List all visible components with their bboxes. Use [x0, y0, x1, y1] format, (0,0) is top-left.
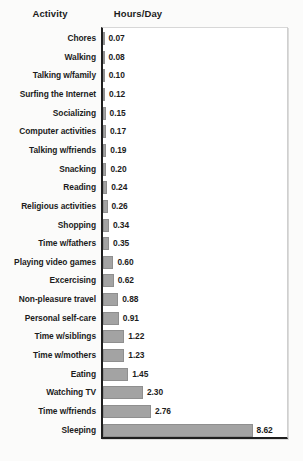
bar	[103, 293, 118, 306]
bar-value-label: 0.62	[118, 275, 134, 285]
bar-row: Computer activities0.17	[0, 123, 303, 142]
bar	[103, 349, 124, 362]
bar-category-label: Time w/friends	[0, 406, 96, 416]
bar-value-label: 0.20	[110, 164, 126, 174]
bar-value-label: 1.45	[132, 369, 148, 379]
bar-value-label: 0.24	[111, 182, 127, 192]
bar-category-label: Shopping	[0, 220, 96, 230]
bar	[103, 405, 151, 418]
bar-value-label: 0.07	[109, 33, 125, 43]
bar	[103, 312, 119, 325]
bar-value-label: 0.91	[123, 313, 139, 323]
bar-row: Surfing the Internet0.12	[0, 86, 303, 105]
bar-value-label: 0.15	[110, 108, 126, 118]
bar	[103, 69, 105, 82]
bar-category-label: Talking w/friends	[0, 145, 96, 155]
bar-value-label: 0.17	[110, 126, 126, 136]
bar-row: Walking0.08	[0, 49, 303, 68]
bar-value-label: 2.30	[147, 387, 163, 397]
bar-value-label: 2.76	[155, 406, 171, 416]
bar-row: Talking w/family0.10	[0, 67, 303, 86]
bar-category-label: Excercising	[0, 275, 96, 285]
bar-row: Playing video games0.60	[0, 254, 303, 273]
bar-value-label: 8.62	[257, 425, 273, 435]
bar	[103, 256, 113, 269]
bar-row: Religious activities0.26	[0, 198, 303, 217]
bar-value-label: 0.34	[113, 220, 129, 230]
bar-value-label: 0.26	[112, 201, 128, 211]
bar-category-label: Time w/siblings	[0, 331, 96, 341]
bar-row: Snacking0.20	[0, 161, 303, 180]
bar-row: Excercising0.62	[0, 272, 303, 291]
bar-category-label: Religious activities	[0, 201, 96, 211]
bar-category-label: Walking	[0, 52, 96, 62]
bar	[103, 200, 108, 213]
bar	[103, 163, 106, 176]
bar-category-label: Playing video games	[0, 257, 96, 267]
bar-row: Watching TV2.30	[0, 384, 303, 403]
bar-category-label: Sleeping	[0, 425, 96, 435]
bar-value-label: 0.19	[110, 145, 126, 155]
bar-category-label: Socializing	[0, 108, 96, 118]
bar-category-label: Talking w/family	[0, 70, 96, 80]
bar-row: Reading0.24	[0, 179, 303, 198]
bar	[103, 32, 105, 45]
bar-row: Sleeping8.62	[0, 422, 303, 441]
bar	[103, 88, 105, 101]
bar-value-label: 0.60	[117, 257, 133, 267]
bar	[103, 51, 105, 64]
bar-category-label: Time w/mothers	[0, 350, 96, 360]
bar-row: Time w/siblings1.22	[0, 328, 303, 347]
bar-value-label: 0.08	[109, 52, 125, 62]
bar-row: Time w/fathers0.35	[0, 235, 303, 254]
bar-category-label: Reading	[0, 182, 96, 192]
bar	[103, 424, 253, 437]
bar-row: Time w/friends2.76	[0, 403, 303, 422]
bar-row: Personal self-care0.91	[0, 310, 303, 329]
bar-row: Socializing0.15	[0, 105, 303, 124]
bar	[103, 144, 106, 157]
bar-row: Time w/mothers1.23	[0, 347, 303, 366]
bar	[103, 330, 124, 343]
bar-category-label: Time w/fathers	[0, 238, 96, 248]
bar-row: Eating1.45	[0, 366, 303, 385]
bar-rows-container: Chores0.07Walking0.08Talking w/family0.1…	[0, 0, 303, 461]
bar	[103, 125, 106, 138]
bar	[103, 386, 143, 399]
bar-value-label: 0.12	[109, 89, 125, 99]
bar	[103, 181, 107, 194]
bar-value-label: 1.23	[128, 350, 144, 360]
bar-category-label: Surfing the Internet	[0, 89, 96, 99]
bar-category-label: Chores	[0, 33, 96, 43]
bar-value-label: 0.10	[109, 70, 125, 80]
bar-value-label: 0.35	[113, 238, 129, 248]
bar-category-label: Computer activities	[0, 126, 96, 136]
bar-value-label: 0.88	[122, 294, 138, 304]
bar	[103, 237, 109, 250]
bar-row: Talking w/friends0.19	[0, 142, 303, 161]
bar	[103, 107, 106, 120]
bar-category-label: Non-pleasure travel	[0, 294, 96, 304]
bar-category-label: Personal self-care	[0, 313, 96, 323]
bar-category-label: Watching TV	[0, 387, 96, 397]
activity-hours-bar-chart: Activity Hours/Day Chores0.07Walking0.08…	[0, 0, 303, 461]
bar-row: Shopping0.34	[0, 217, 303, 236]
bar-row: Non-pleasure travel0.88	[0, 291, 303, 310]
bar-value-label: 1.22	[128, 331, 144, 341]
bar	[103, 368, 128, 381]
bar-category-label: Eating	[0, 369, 96, 379]
bar	[103, 274, 114, 287]
bar	[103, 219, 109, 232]
bar-category-label: Snacking	[0, 164, 96, 174]
bar-row: Chores0.07	[0, 30, 303, 49]
